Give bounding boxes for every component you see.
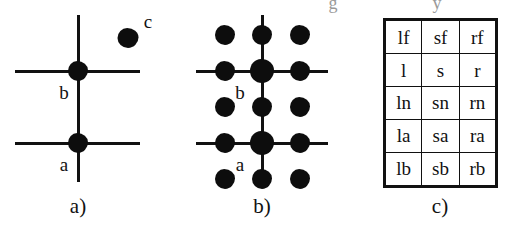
table-cell: sf: [422, 20, 459, 54]
grid-dot: [252, 169, 272, 189]
node-label-b: b: [235, 83, 245, 102]
table-cell: l: [385, 54, 422, 87]
table-cell: sb: [422, 152, 459, 186]
node-b: [68, 61, 88, 81]
table-cell: lf: [385, 20, 422, 54]
node-b: [250, 59, 274, 83]
table-row: ln sn rn: [385, 87, 497, 120]
grid-dot: [290, 97, 310, 117]
grid-dot: [290, 169, 310, 189]
table-row: l s r: [385, 54, 497, 87]
grid-dot: [215, 61, 235, 81]
table-cell: ln: [385, 87, 422, 120]
panel-caption-a: a): [70, 196, 86, 217]
table-cell: sn: [422, 87, 459, 120]
grid-dot: [290, 133, 310, 153]
panel-b: b a b): [180, 0, 340, 228]
table-row: lb sb rb: [385, 152, 497, 186]
table-row: la sa ra: [385, 119, 497, 152]
node-label-a: a: [60, 155, 68, 174]
grid-dot: [215, 25, 235, 45]
panel-caption-c: c): [432, 196, 448, 217]
node-a: [68, 133, 88, 153]
panel-c: lf sf rf l s r ln sn rn la sa ra: [340, 0, 511, 228]
panel-caption-b: b): [253, 196, 271, 217]
figure-container: g y b a c a): [0, 0, 511, 228]
panel-a: b a c a): [0, 0, 180, 228]
table-cell: lb: [385, 152, 422, 186]
node-label-c: c: [144, 12, 152, 31]
node-a: [250, 131, 274, 155]
grid-dot: [215, 97, 235, 117]
label-table-body: lf sf rf l s r ln sn rn la sa ra: [385, 20, 497, 187]
node-label-a: a: [236, 155, 244, 174]
table-cell: r: [459, 54, 496, 87]
table-row: lf sf rf: [385, 20, 497, 54]
grid-dot: [252, 97, 272, 117]
table-cell: rb: [459, 152, 496, 186]
vertical-axis-line: [77, 15, 80, 182]
grid-dot: [290, 61, 310, 81]
table-cell: rn: [459, 87, 496, 120]
table-cell: sa: [422, 119, 459, 152]
grid-dot: [290, 25, 310, 45]
grid-dot: [252, 25, 272, 45]
table-cell: ra: [459, 119, 496, 152]
table-cell: rf: [459, 20, 496, 54]
grid-dot: [215, 169, 235, 189]
node-label-b: b: [59, 83, 69, 102]
node-c: [118, 28, 139, 48]
grid-dot: [215, 133, 235, 153]
label-table: lf sf rf l s r ln sn rn la sa ra: [383, 18, 498, 188]
table-cell: la: [385, 119, 422, 152]
table-cell: s: [422, 54, 459, 87]
